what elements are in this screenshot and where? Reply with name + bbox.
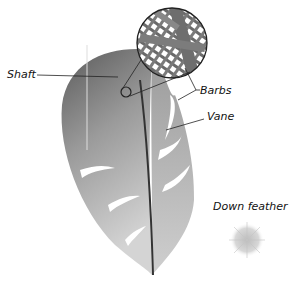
label-vane: Vane [207, 110, 234, 123]
label-barbs: Barbs [200, 84, 232, 97]
feather-left-vane [62, 49, 152, 275]
label-shaft: Shaft [7, 68, 36, 81]
feather-diagram [0, 0, 292, 297]
label-down-feather: Down feather [213, 200, 288, 213]
feather-right-vane [151, 50, 194, 275]
down-feather [229, 222, 265, 258]
